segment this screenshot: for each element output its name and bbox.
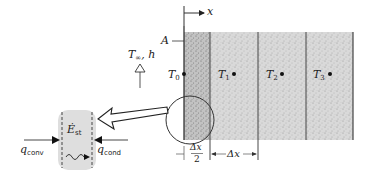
half-dx-numerator: Δx (190, 143, 202, 152)
energy-storage-label: Ėst (67, 124, 81, 137)
plane-wall-slab (184, 26, 353, 160)
control-volume-element (58, 110, 96, 170)
node-label-3: T3 (313, 69, 325, 82)
q-conv-arrow (24, 136, 60, 144)
node-dot-0 (182, 72, 186, 76)
convection-arrow-icon (135, 64, 145, 88)
q-conv-label: qconv (20, 144, 44, 157)
node-label-2: T2 (266, 69, 278, 82)
node-label-1: T1 (218, 69, 230, 82)
area-label: A (161, 35, 169, 46)
q-cond-label: qcond (97, 144, 121, 157)
node-dot-3 (328, 72, 332, 76)
node-label-0: T0 (168, 69, 180, 82)
x-axis-label: x (207, 6, 213, 17)
x-axis-arrow (184, 6, 204, 26)
half-dx-denominator: 2 (194, 155, 200, 164)
node-dot-1 (232, 72, 236, 76)
surface-half-cell (184, 32, 210, 140)
dx-label: Δx (227, 149, 240, 159)
zoom-arrow-icon (98, 107, 168, 129)
h-label: , h (141, 48, 155, 61)
ambient-convection-label: T∞, h (128, 49, 155, 62)
node-dot-2 (280, 72, 284, 76)
diagram-canvas (0, 0, 370, 175)
